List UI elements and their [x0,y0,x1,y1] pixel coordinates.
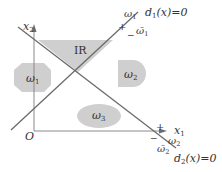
d2-negative-sign: − [150,133,158,143]
diagram-canvas: x2 x1 O IR ω1 ω2 ω3 d1(x)=0 ω1 + − ω̄1 +… [0,0,222,172]
d1-negative-class-label: ω̄1 [136,25,148,38]
d2-equation-label: d2(x)=0 [174,152,217,166]
d1-positive-sign: + [118,21,126,32]
x2-axis-label: x2 [23,20,34,34]
d1-equation-label: d1(x)=0 [145,6,188,20]
ir-label: IR [74,44,87,57]
origin-label: O [25,130,34,143]
d2-positive-sign: + [156,121,164,132]
d1-negative-sign: − [127,30,135,40]
